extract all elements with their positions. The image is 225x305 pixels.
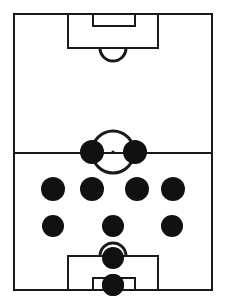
pitch-diagram <box>0 0 225 305</box>
player-marker[interactable] <box>102 215 124 237</box>
top-goal-area <box>93 14 135 26</box>
center-mark <box>111 150 114 153</box>
player-marker[interactable] <box>123 140 147 164</box>
pitch-svg <box>0 0 225 305</box>
player-markers-group <box>41 140 185 296</box>
goalkeeper-marker[interactable] <box>102 274 124 296</box>
player-marker[interactable] <box>80 140 104 164</box>
player-marker[interactable] <box>42 215 64 237</box>
player-marker[interactable] <box>161 177 185 201</box>
player-marker[interactable] <box>125 177 149 201</box>
player-marker[interactable] <box>80 177 104 201</box>
player-marker[interactable] <box>41 177 65 201</box>
player-marker[interactable] <box>161 215 183 237</box>
top-penalty-arc <box>100 48 126 61</box>
player-marker[interactable] <box>102 247 124 269</box>
